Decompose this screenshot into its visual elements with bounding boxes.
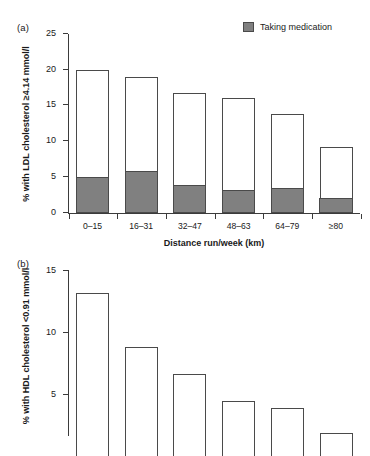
bar-panel-b xyxy=(76,293,109,456)
panel-a-x-tick xyxy=(312,214,313,219)
panel-a-x-category-label: 32–47 xyxy=(178,222,202,231)
panel-a-y-tick-label: 0 xyxy=(51,207,56,216)
legend-label-taking-medication: Taking medication xyxy=(260,23,332,32)
panel-b-y-axis-title: % with HDL cholesterol <0.91 mmol/l xyxy=(22,256,31,436)
bar-panel-b xyxy=(222,401,255,456)
panel-a-tag: (a) xyxy=(17,22,29,33)
bar-panel-a xyxy=(76,70,109,213)
bar-panel-a xyxy=(173,93,206,212)
panel-a: (a) Taking medication % with LDL cholest… xyxy=(0,0,370,252)
panel-a-plot-area: 0510152025 xyxy=(68,34,360,214)
panel-b-y-tick-label: 15 xyxy=(46,266,56,275)
panel-a-x-tick xyxy=(215,214,216,219)
panel-a-y-axis-title: % with LDL cholesterol ≥4.14 mmol/l xyxy=(22,34,31,214)
panel-a-x-axis-title: Distance run/week (km) xyxy=(68,239,360,248)
panel-a-x-tick xyxy=(361,214,362,219)
panel-b-y-tick-label: 5 xyxy=(51,389,56,398)
panel-b: (b) % with HDL cholesterol <0.91 mmol/l … xyxy=(0,252,370,436)
bar-segment-taking-medication xyxy=(319,198,352,213)
bar-panel-b xyxy=(125,347,158,456)
panel-a-x-tick xyxy=(69,214,70,219)
bar-panel-b xyxy=(320,433,353,456)
panel-a-x-category-label: 48–63 xyxy=(227,222,251,231)
panel-a-bars xyxy=(68,34,360,214)
panel-a-y-tick-label: 15 xyxy=(46,100,56,109)
bar-panel-b xyxy=(173,374,206,456)
bar-panel-b xyxy=(271,408,304,456)
panel-a-y-tick-label: 10 xyxy=(46,136,56,145)
bar-segment-taking-medication xyxy=(173,185,206,213)
panel-a-x-tick xyxy=(117,214,118,219)
panel-a-x-tick xyxy=(166,214,167,219)
legend: Taking medication xyxy=(243,22,332,32)
panel-a-x-category-label: 0–15 xyxy=(83,222,102,231)
panel-a-x-category-label: 16–31 xyxy=(129,222,153,231)
panel-b-y-tick-label: 10 xyxy=(46,327,56,336)
bar-panel-a xyxy=(222,98,255,212)
bar-panel-a xyxy=(125,77,158,213)
panel-a-y-tick-label: 20 xyxy=(46,64,56,73)
bar-panel-a xyxy=(271,114,304,213)
panel-a-x-category-label: ≥80 xyxy=(329,222,343,231)
panel-a-y-tick-label: 25 xyxy=(46,28,56,37)
legend-swatch-taking-medication xyxy=(243,22,254,32)
bar-panel-a xyxy=(320,147,353,213)
panel-a-y-tick-label: 5 xyxy=(51,171,56,180)
bar-segment-taking-medication xyxy=(125,171,158,213)
panel-a-x-tick xyxy=(263,214,264,219)
bar-segment-taking-medication xyxy=(76,177,109,213)
bar-segment-taking-medication xyxy=(271,188,304,213)
panel-a-x-category-label: 64–79 xyxy=(275,222,299,231)
panel-b-bars xyxy=(68,270,360,436)
panel-b-plot-area: 51015 xyxy=(68,270,360,436)
bar-segment-taking-medication xyxy=(222,190,255,213)
